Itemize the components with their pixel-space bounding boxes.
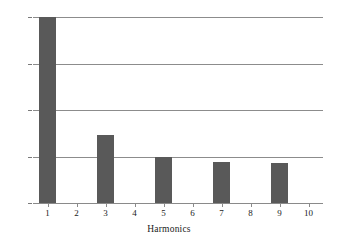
gridline <box>33 64 323 65</box>
x-axis-tick-label: 6 <box>181 208 205 218</box>
x-axis-tick-label: 8 <box>239 208 263 218</box>
x-axis-tick-label: 7 <box>210 208 234 218</box>
bar-chart: 0255075100 12345678910 Harmonics <box>0 0 338 245</box>
x-axis-tick-label: 3 <box>94 208 118 218</box>
x-axis-tick-mark <box>280 204 281 207</box>
x-axis-tick-label: 2 <box>65 208 89 218</box>
x-axis-tick-mark <box>309 204 310 207</box>
y-axis-tick-mark <box>28 17 32 18</box>
x-axis-tick-mark <box>222 204 223 207</box>
x-axis-tick-label: 1 <box>36 208 60 218</box>
bar <box>271 163 289 203</box>
y-axis-tick-mark <box>28 157 32 158</box>
x-axis-tick-label: 4 <box>123 208 147 218</box>
x-axis-tick-label: 10 <box>297 208 321 218</box>
bar <box>155 157 173 204</box>
x-axis-tick-label: 9 <box>268 208 292 218</box>
y-axis-tick-mark <box>28 110 32 111</box>
bar <box>39 17 57 203</box>
bar <box>213 162 231 203</box>
x-axis-tick-mark <box>193 204 194 207</box>
y-axis-tick-mark <box>28 64 32 65</box>
gridline <box>33 157 323 158</box>
plot-area <box>33 17 323 203</box>
x-axis-tick-mark <box>251 204 252 207</box>
bar <box>97 135 115 203</box>
y-axis-tick-mark <box>28 203 32 204</box>
gridline <box>33 110 323 111</box>
x-axis-tick-mark <box>135 204 136 207</box>
x-axis-tick-mark <box>48 204 49 207</box>
x-axis-tick-mark <box>164 204 165 207</box>
x-axis-title: Harmonics <box>0 224 338 234</box>
x-axis-tick-label: 5 <box>152 208 176 218</box>
x-axis-tick-mark <box>77 204 78 207</box>
x-axis-tick-mark <box>106 204 107 207</box>
gridline <box>33 17 323 18</box>
